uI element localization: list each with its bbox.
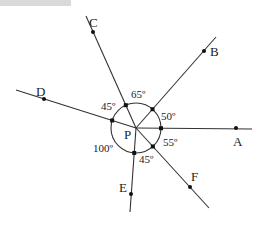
point-label-f: F (191, 169, 198, 184)
angle-label-c-d: 45º (101, 100, 116, 112)
ray-d: D (16, 84, 136, 128)
angle-label-f-a: 55º (163, 136, 178, 148)
angle-label-a-b: 50º (161, 110, 176, 122)
center-label-p: P (124, 127, 131, 142)
point-c (91, 30, 95, 34)
circle-intersection-marker (132, 151, 136, 155)
angle-label-e-f: 45º (139, 153, 154, 165)
point-label-c: C (89, 15, 98, 30)
circle-intersection-marker (151, 144, 155, 148)
point-b (202, 49, 206, 53)
angle-label-d-e: 100º (93, 142, 114, 154)
circle-intersection-marker (151, 107, 155, 111)
point-label-b: B (210, 44, 219, 59)
point-label-d: D (36, 84, 45, 99)
circle-intersection-marker (110, 118, 114, 122)
ray-line (16, 90, 136, 128)
point-label-a: A (233, 134, 243, 149)
angle-diagram: ABCDEFP50º65º45º100º45º55º (0, 0, 267, 227)
circle-intersection-marker (159, 126, 163, 130)
point-label-e: E (119, 180, 127, 195)
point-f (188, 185, 192, 189)
ray-b: B (136, 37, 219, 128)
point-a (234, 126, 238, 130)
point-e (129, 192, 133, 196)
angle-label-b-c: 65º (131, 88, 146, 100)
circle-intersection-marker (124, 103, 128, 107)
